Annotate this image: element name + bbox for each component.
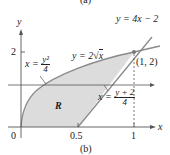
caption-top: (a) (80, 0, 91, 5)
inv-parabola-lhs: x = (25, 58, 39, 69)
x-axis-label: x (158, 122, 162, 132)
x-tick-label-0: 0 (11, 131, 16, 141)
y-axis-arrow-icon (19, 29, 23, 35)
sqrt-label-lhs: y = 2 (72, 50, 93, 61)
region-label: R (55, 101, 62, 111)
caption: (b) (80, 144, 92, 154)
x-tick-label-1: 1 (131, 131, 136, 141)
pointer-inv-parabola (40, 76, 46, 84)
inv-line-den: 4 (114, 98, 135, 107)
point-label: (1, 2) (136, 57, 158, 67)
sqrt-radical-icon: √ (93, 50, 99, 61)
x-axis-arrow-icon (150, 125, 156, 129)
inv-parabola-den: 4 (41, 65, 50, 74)
intersection-point (132, 50, 136, 54)
inv-line-lhs: x = (98, 91, 112, 102)
line-label: y = 4x − 2 (116, 14, 158, 24)
inv-line-label: x = y + 2 4 (98, 88, 135, 107)
horizontal-arrow-icon (150, 83, 155, 87)
y-axis-label: y (17, 17, 21, 27)
inv-line-fraction: y + 2 4 (114, 88, 135, 107)
sqrt-label: y = 2√x (72, 51, 103, 61)
x-tick-label-0.5: 0.5 (70, 131, 83, 141)
pointer-line-label (130, 26, 138, 30)
inv-parabola-fraction: y² 4 (41, 55, 50, 74)
sqrt-label-radicand: x (99, 49, 103, 61)
y-tick-label-2: 2 (11, 47, 16, 57)
inv-parabola-label: x = y² 4 (25, 55, 50, 74)
